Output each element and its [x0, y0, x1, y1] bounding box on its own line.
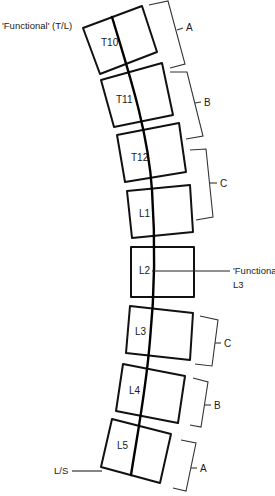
lumbosacral-label: L/S	[54, 465, 68, 476]
vertebra-label: L1	[139, 208, 151, 219]
vertebra-label: L4	[129, 385, 141, 396]
vertebra-t11: T11	[101, 63, 173, 127]
functional-l3-label-line2: L3	[233, 279, 244, 290]
bracket-shape	[173, 440, 196, 491]
vertebra-label: L2	[139, 265, 151, 276]
bracket-shape	[190, 149, 213, 220]
bracket-c: C	[190, 149, 227, 220]
bracket-shape	[170, 72, 203, 139]
vertebra-l4: L4	[116, 364, 185, 423]
vertebra-l1: L1	[127, 185, 193, 238]
vertebra-body-outline	[127, 185, 193, 238]
bracket-label: C	[220, 178, 227, 189]
bracket-label: A	[200, 463, 207, 474]
vertebra-l3: L3	[126, 306, 193, 360]
bracket-a: A	[149, 1, 193, 68]
bracket-b: B	[190, 378, 221, 427]
vertebrae-column: T10T11T12L1L2L3L4L5	[83, 6, 194, 483]
vertebra-label: T11	[116, 94, 133, 105]
bracket-a: A	[173, 440, 207, 491]
vertebra-l2: L2	[131, 247, 194, 297]
bracket-label: B	[214, 400, 221, 411]
bracket-b: B	[170, 72, 211, 139]
vertebra-label: T12	[131, 152, 149, 163]
vertebra-label: L5	[117, 440, 129, 451]
bracket-label: A	[186, 22, 193, 33]
functional-l3-label-line1: 'Functional'	[233, 265, 275, 276]
spine-diagram: 'Functional' (T/L) T10T11T12L1L2L3L4L5 A…	[0, 0, 275, 496]
vertebra-label: T10	[101, 37, 119, 48]
bracket-label: B	[204, 97, 211, 108]
bracket-shape	[149, 1, 185, 68]
functional-tl-label: 'Functional' (T/L)	[2, 20, 72, 31]
bracket-shape	[195, 316, 218, 366]
vertebra-body-outline	[116, 364, 185, 423]
bracket-tick	[195, 102, 201, 103]
bracket-tick	[177, 28, 183, 30]
bracket-c: C	[195, 316, 231, 366]
bracket-label: C	[224, 338, 231, 349]
vertebra-body-outline	[101, 63, 173, 127]
vertebra-label: L3	[135, 326, 147, 337]
bracket-shape	[190, 378, 208, 427]
